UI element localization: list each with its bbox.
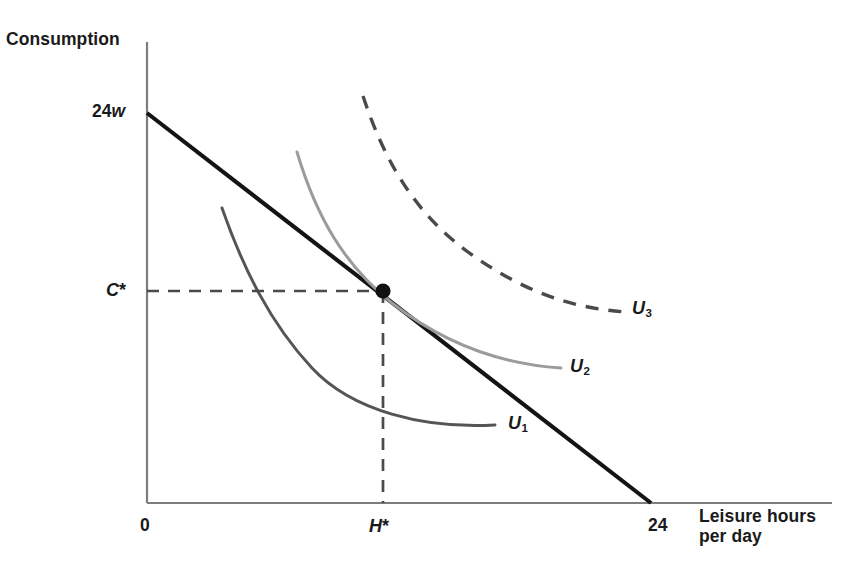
- u1-subscript: 1: [522, 422, 528, 434]
- y-tick-w-text: w: [111, 101, 125, 121]
- x-tick-label-optimal-leisure: H*: [369, 516, 389, 536]
- y-tick-label-optimal-consumption: C*: [106, 280, 126, 300]
- y-tick-label-wage-intercept: 24w: [92, 102, 125, 122]
- y-axis-title: Consumption: [6, 30, 120, 50]
- u3-subscript: 3: [646, 307, 652, 319]
- h-text: H: [369, 516, 382, 536]
- indifference-curve-u3: [363, 96, 626, 312]
- h-star-glyph: *: [382, 516, 389, 536]
- optimal-bundle-point: [375, 283, 390, 298]
- u1-letter: U: [508, 413, 521, 433]
- x-tick-label-origin: 0: [140, 516, 150, 536]
- x-axis-title-line-2: per day: [699, 526, 762, 546]
- u2-letter: U: [570, 356, 583, 376]
- u3-letter: U: [632, 298, 645, 318]
- curve-label-u2: U2: [570, 356, 589, 376]
- c-star-glyph: *: [119, 280, 126, 300]
- x-axis-title: Leisure hoursper day: [699, 507, 816, 546]
- c-text: C: [106, 280, 119, 300]
- curve-label-u3: U3: [632, 298, 651, 318]
- y-tick-24-text: 24: [92, 101, 111, 121]
- x-tick-label-total-hours: 24: [648, 516, 667, 536]
- chart-canvas: [0, 0, 856, 580]
- u2-subscript: 2: [584, 365, 590, 377]
- indifference-curve-figure: Consumption 24w C* 0 H* 24 Leisure hours…: [0, 0, 856, 580]
- x-axis-title-line-1: Leisure hours: [699, 506, 816, 526]
- curve-label-u1: U1: [508, 413, 527, 433]
